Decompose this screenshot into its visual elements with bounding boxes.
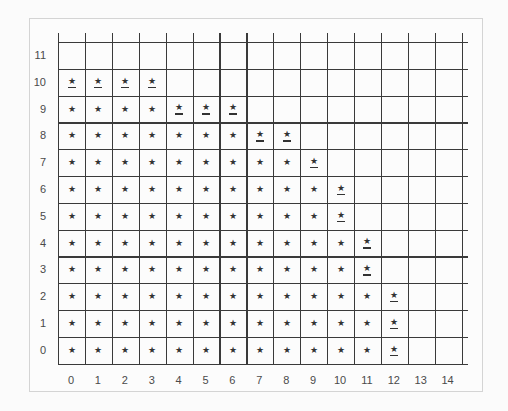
grid-cell: ★ — [354, 311, 380, 337]
y-tick-label: 1 — [22, 317, 46, 329]
grid-cell: ★ — [328, 257, 354, 283]
star-icon: ★ — [121, 319, 129, 328]
grid-cell: ★ — [274, 123, 300, 149]
grid-cell: ★ — [220, 150, 246, 176]
star-icon: ★ — [229, 131, 237, 140]
star-icon: ★ — [256, 319, 264, 328]
star-icon: ★ — [283, 319, 291, 328]
x-tick-label: 8 — [273, 374, 299, 386]
star-icon: ★ — [175, 158, 183, 167]
grid-cell: ★ — [381, 311, 407, 337]
grid-cell: ★ — [274, 150, 300, 176]
star-icon: ★ — [310, 212, 318, 221]
grid-cell: ★ — [354, 337, 380, 363]
y-tick-label: 4 — [22, 237, 46, 249]
grid-cell: ★ — [328, 177, 354, 203]
underline-mark — [390, 301, 398, 303]
star-icon: ★ — [148, 158, 156, 167]
star-icon: ★ — [148, 131, 156, 140]
y-tick-label: 9 — [22, 103, 46, 115]
star-icon: ★ — [229, 103, 237, 112]
star-icon: ★ — [121, 158, 129, 167]
grid-cell: ★ — [59, 96, 85, 122]
star-icon: ★ — [175, 185, 183, 194]
grid-cell: ★ — [328, 311, 354, 337]
star-icon: ★ — [175, 265, 183, 274]
star-icon: ★ — [310, 292, 318, 301]
grid-cell: ★ — [247, 257, 273, 283]
underline-mark — [337, 221, 345, 223]
grid-cell: ★ — [274, 257, 300, 283]
x-tick-label: 4 — [166, 374, 192, 386]
star-icon: ★ — [148, 77, 156, 86]
grid-cell: ★ — [193, 257, 219, 283]
star-icon: ★ — [229, 319, 237, 328]
star-icon: ★ — [310, 239, 318, 248]
star-icon: ★ — [363, 264, 371, 273]
x-tick-label: 0 — [58, 374, 84, 386]
star-icon: ★ — [256, 212, 264, 221]
star-icon: ★ — [283, 130, 291, 139]
star-icon: ★ — [256, 239, 264, 248]
star-icon: ★ — [283, 185, 291, 194]
star-icon: ★ — [363, 346, 371, 355]
y-tick-label: 6 — [22, 183, 46, 195]
star-icon: ★ — [202, 185, 210, 194]
star-icon: ★ — [256, 292, 264, 301]
grid-cell: ★ — [112, 337, 138, 363]
staircase-grid: 0123456789101101234567891011121314★★★★★★… — [0, 0, 508, 411]
grid-cell: ★ — [247, 123, 273, 149]
star-icon: ★ — [363, 319, 371, 328]
grid-cell: ★ — [59, 311, 85, 337]
grid-cell: ★ — [85, 284, 111, 310]
x-tick-label: 1 — [85, 374, 111, 386]
y-tick-label: 7 — [22, 156, 46, 168]
star-icon: ★ — [175, 346, 183, 355]
grid-cell: ★ — [220, 337, 246, 363]
grid-cell: ★ — [166, 230, 192, 256]
grid-cell: ★ — [301, 337, 327, 363]
grid-cell: ★ — [139, 257, 165, 283]
star-icon: ★ — [202, 265, 210, 274]
star-icon: ★ — [68, 77, 76, 86]
star-icon: ★ — [202, 292, 210, 301]
star-icon: ★ — [94, 131, 102, 140]
underline-mark — [256, 140, 264, 142]
grid-cell: ★ — [59, 257, 85, 283]
underline-mark — [310, 167, 318, 169]
star-icon: ★ — [121, 292, 129, 301]
star-icon: ★ — [202, 131, 210, 140]
grid-cell: ★ — [220, 284, 246, 310]
grid-cell: ★ — [274, 284, 300, 310]
star-icon: ★ — [94, 77, 102, 86]
star-icon: ★ — [390, 318, 398, 327]
grid-cell: ★ — [85, 203, 111, 229]
underline-mark — [363, 274, 371, 276]
grid-cell: ★ — [112, 150, 138, 176]
star-icon: ★ — [390, 345, 398, 354]
grid-cell: ★ — [247, 177, 273, 203]
star-icon: ★ — [94, 239, 102, 248]
x-tick-label: 5 — [193, 374, 219, 386]
underline-mark — [175, 113, 183, 115]
grid-cell: ★ — [193, 150, 219, 176]
star-icon: ★ — [202, 346, 210, 355]
star-icon: ★ — [363, 237, 371, 246]
grid-cell: ★ — [139, 230, 165, 256]
star-icon: ★ — [283, 265, 291, 274]
star-icon: ★ — [68, 212, 76, 221]
underline-mark — [363, 247, 371, 249]
star-icon: ★ — [229, 212, 237, 221]
x-tick-label: 3 — [139, 374, 165, 386]
star-icon: ★ — [94, 105, 102, 114]
grid-cell: ★ — [220, 203, 246, 229]
grid-cell: ★ — [354, 230, 380, 256]
grid-cell: ★ — [220, 311, 246, 337]
grid-cell: ★ — [193, 284, 219, 310]
grid-cell: ★ — [85, 177, 111, 203]
star-icon: ★ — [121, 77, 129, 86]
star-icon: ★ — [68, 346, 76, 355]
grid-cell: ★ — [301, 150, 327, 176]
grid-cell: ★ — [59, 337, 85, 363]
star-icon: ★ — [148, 346, 156, 355]
